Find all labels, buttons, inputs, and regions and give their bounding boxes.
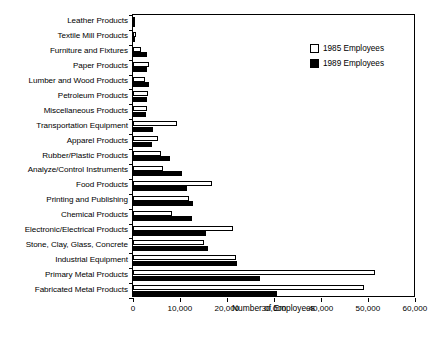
y-axis-tick [129, 283, 133, 284]
bar-1989 [133, 276, 260, 281]
category-label: Paper Products [73, 61, 128, 70]
employment-bar-chart: Leather ProductsTextile Mill ProductsFur… [0, 0, 436, 341]
category-label: Food Products [76, 180, 128, 189]
legend-label-1989: 1989 Employees [323, 59, 384, 68]
category-label: Lumber and Wood Products [29, 76, 128, 85]
x-axis-tick [321, 298, 322, 302]
legend-swatch-black-square-icon [310, 59, 319, 68]
bar-1985 [133, 226, 233, 231]
y-axis-tick [129, 149, 133, 150]
x-axis-title: Number of Employees [132, 303, 415, 313]
bar-1985 [133, 17, 135, 22]
bar-1985 [133, 196, 189, 201]
bar-1985 [133, 91, 148, 96]
bar-1989 [133, 186, 187, 191]
chart-legend: 1985 Employees 1989 Employees [310, 41, 410, 71]
category-label: Leather Products [67, 16, 128, 25]
y-axis-tick [129, 89, 133, 90]
bar-1985 [133, 270, 375, 275]
bar-1985 [133, 62, 149, 67]
bar-1985 [133, 211, 172, 216]
legend-item-1985: 1985 Employees [310, 41, 410, 56]
y-axis-tick [129, 30, 133, 31]
bar-1989 [133, 291, 277, 296]
y-axis-tick [129, 15, 133, 16]
bar-1985 [133, 151, 161, 156]
legend-item-1989: 1989 Employees [310, 56, 410, 71]
category-label: Industrial Equipment [55, 255, 128, 264]
bar-1989 [133, 216, 192, 221]
bar-1989 [133, 171, 182, 176]
bar-1989 [133, 231, 206, 236]
bar-1989 [133, 52, 147, 57]
category-label: Electronic/Electrical Products [25, 225, 128, 234]
y-axis-tick [129, 268, 133, 269]
x-axis-tick [180, 298, 181, 302]
category-label: Chemical Products [61, 210, 128, 219]
bar-1989 [133, 201, 193, 206]
bar-1989 [133, 261, 237, 266]
y-axis-tick [129, 119, 133, 120]
bar-1989 [133, 246, 208, 251]
y-axis-tick [129, 134, 133, 135]
bar-1989 [133, 22, 135, 27]
bar-1985 [133, 32, 136, 37]
x-axis-tick [133, 298, 134, 302]
category-axis-labels: Leather ProductsTextile Mill ProductsFur… [0, 14, 131, 297]
bar-1985 [133, 166, 163, 171]
x-axis-tick [415, 298, 416, 302]
legend-label-1985: 1985 Employees [323, 44, 384, 53]
bar-1989 [133, 97, 147, 102]
x-axis-tick [274, 298, 275, 302]
bar-1989 [133, 127, 153, 132]
category-label: Furniture and Fixtures [50, 46, 128, 55]
bar-1985 [133, 106, 147, 111]
y-axis-tick [129, 253, 133, 254]
legend-swatch-white-square-icon [310, 44, 319, 53]
bar-1985 [133, 255, 236, 260]
category-label: Transportation Equipment [36, 121, 128, 130]
bar-1989 [133, 37, 135, 42]
bar-1985 [133, 121, 177, 126]
category-label: Printing and Publishing [46, 195, 128, 204]
category-label: Apparel Products [67, 136, 128, 145]
x-axis-tick [368, 298, 369, 302]
category-label: Analyze/Control Instruments [28, 165, 128, 174]
bar-1985 [133, 285, 364, 290]
bar-1989 [133, 112, 146, 117]
x-axis-tick [227, 298, 228, 302]
bar-1989 [133, 82, 149, 87]
category-label: Miscellaneous Products [44, 106, 128, 115]
y-axis-tick [129, 238, 133, 239]
y-axis-tick [129, 104, 133, 105]
bar-1985 [133, 240, 204, 245]
bar-1989 [133, 67, 147, 72]
bar-1985 [133, 181, 212, 186]
category-label: Fabricated Metal Products [35, 285, 128, 294]
bar-1985 [133, 77, 145, 82]
category-label: Petroleum Products [58, 91, 128, 100]
category-label: Rubber/Plastic Products [42, 151, 128, 160]
category-label: Textile Mill Products [58, 31, 128, 40]
bar-1985 [133, 47, 141, 52]
y-axis-tick [129, 164, 133, 165]
category-label: Stone, Clay, Glass, Concrete [26, 240, 128, 249]
bar-1985 [133, 136, 158, 141]
bar-1989 [133, 142, 152, 147]
category-label: Primary Metal Products [45, 270, 128, 279]
bar-1989 [133, 156, 170, 161]
